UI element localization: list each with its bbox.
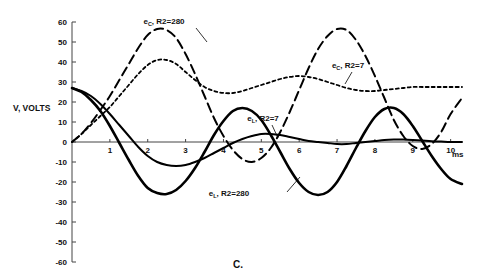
x-axis-title: ms xyxy=(452,150,464,159)
x-tick-label: 4 xyxy=(221,146,226,155)
y-tick-label: 60 xyxy=(58,18,67,27)
annotation-value: , R2=7 xyxy=(255,114,279,123)
y-tick-label: 10 xyxy=(58,118,67,127)
y-tick-label: 40 xyxy=(58,58,67,67)
x-tick-label: 1 xyxy=(108,146,113,155)
y-tick-label: 30 xyxy=(58,78,67,87)
y-axis-title: V, VOLTS xyxy=(13,103,51,113)
annotation-value: , R2=280 xyxy=(217,189,250,198)
y-tick-label: -40 xyxy=(55,218,67,227)
x-tick-label: 6 xyxy=(297,146,302,155)
x-tick-label: 2 xyxy=(146,146,151,155)
y-tick-label: -20 xyxy=(55,178,67,187)
x-tick-label: 5 xyxy=(259,146,264,155)
x-tick-label: 3 xyxy=(183,146,188,155)
y-tick-label: 0 xyxy=(63,138,68,147)
annotation-value: , R2=7 xyxy=(340,61,364,70)
y-tick-label: 20 xyxy=(58,98,67,107)
y-tick-label: -60 xyxy=(55,258,67,267)
annotation-value: , R2=280 xyxy=(152,17,185,26)
y-tick-label: 50 xyxy=(58,38,67,47)
figure-caption: C. xyxy=(233,259,243,270)
chart-figure: -60-50-40-30-20-100102030405060123456789… xyxy=(0,0,481,278)
x-tick-label: 7 xyxy=(335,146,340,155)
x-tick-label: 9 xyxy=(411,146,416,155)
x-tick-label: 8 xyxy=(373,146,378,155)
y-tick-label: -30 xyxy=(55,198,67,207)
y-tick-label: -10 xyxy=(55,158,67,167)
y-tick-label: -50 xyxy=(55,238,67,247)
